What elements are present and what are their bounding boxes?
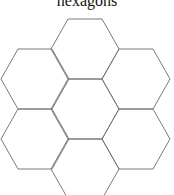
hexagon-center: [51, 79, 119, 139]
hexagon-upper-right: [102, 49, 170, 109]
hexagon-upper-left: [1, 49, 69, 109]
hexagon-bottom: [51, 139, 119, 195]
hexagon-lower-left: [1, 109, 69, 169]
hexagon-lower-right: [102, 109, 170, 169]
hexagon-grid: [0, 0, 174, 195]
hexagon-top: [51, 19, 119, 79]
